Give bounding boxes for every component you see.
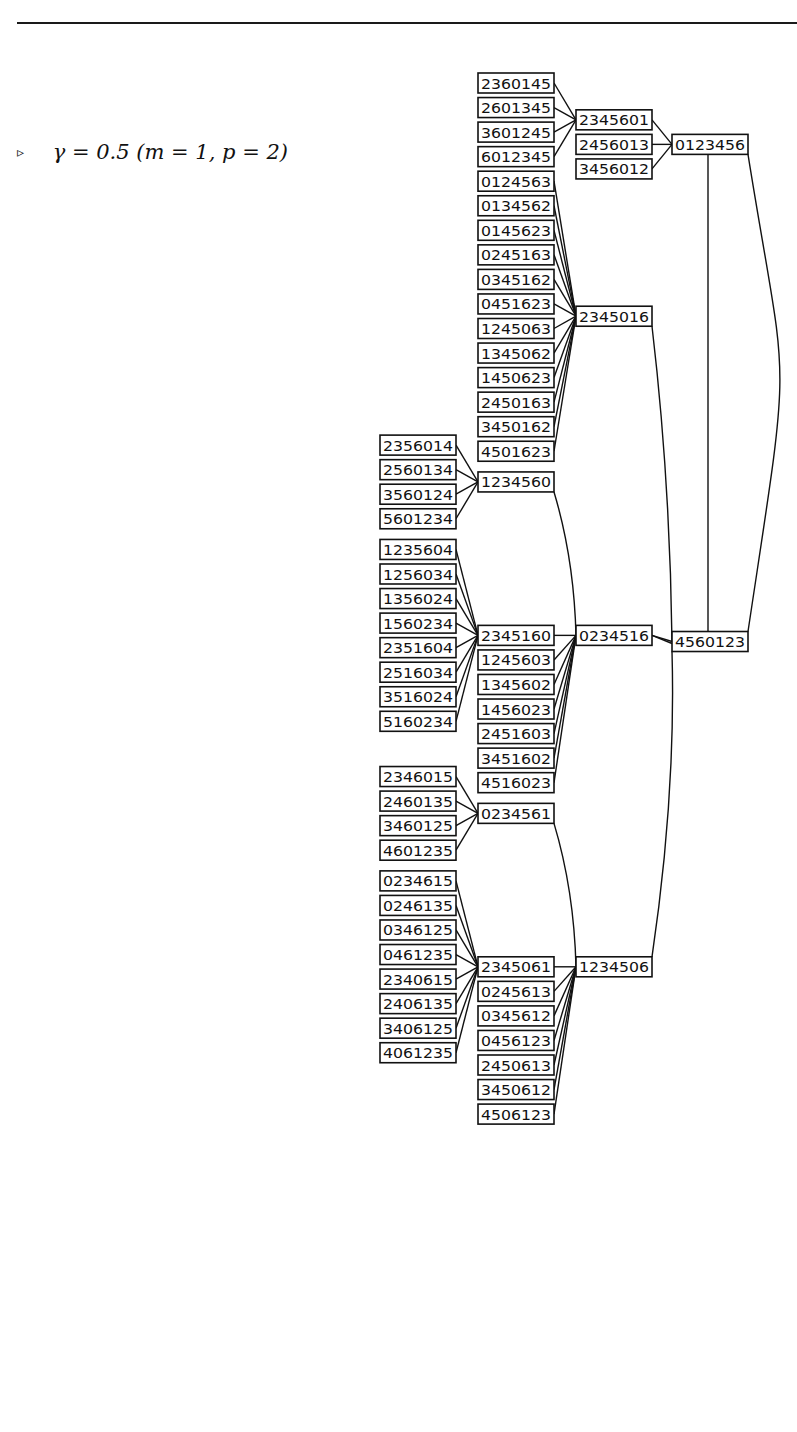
tree-diagram: 2360145260134536012456012345234560124560…: [0, 0, 797, 1432]
node-label: 2360145: [481, 76, 551, 92]
edge-4061235-2345061: [456, 967, 478, 1053]
node-2560134: 2560134: [380, 460, 456, 480]
edge-5160234-2345160: [456, 635, 478, 721]
node-label: 1345062: [481, 346, 551, 362]
node-label: 0345162: [481, 272, 551, 288]
edge-1234506-4560123: [652, 652, 673, 957]
node-1234506: 1234506: [576, 957, 652, 977]
node-label: 1235604: [383, 542, 453, 558]
node-label: 0346125: [383, 922, 453, 938]
node-label: 0145623: [481, 223, 551, 239]
edge-3456012-0123456: [652, 144, 672, 169]
node-label: 2345016: [579, 309, 649, 325]
node-3516024: 3516024: [380, 687, 456, 707]
node-1456023: 1456023: [478, 699, 554, 719]
node-3456012: 3456012: [576, 159, 652, 179]
node-label: 2340615: [383, 972, 453, 988]
edge-4501623-2345016: [554, 316, 576, 451]
node-label: 1560234: [383, 616, 453, 632]
node-label: 3406125: [383, 1021, 453, 1037]
node-label: 2456013: [579, 137, 649, 153]
node-label: 0345612: [481, 1008, 551, 1024]
edge-0145623-2345016: [554, 230, 576, 316]
node-label: 2406135: [383, 996, 453, 1012]
edge-2450163-2345016: [554, 316, 576, 402]
node-label: 2346015: [383, 769, 453, 785]
node-label: 2345061: [481, 959, 551, 975]
node-label: 6012345: [481, 149, 551, 165]
node-label: 2345160: [481, 628, 551, 644]
node-2601345: 2601345: [478, 98, 554, 118]
node-2460135: 2460135: [380, 791, 456, 811]
node-0245163: 0245163: [478, 245, 554, 265]
node-0345612: 0345612: [478, 1006, 554, 1026]
edge-2345016-4560123: [652, 326, 672, 641]
node-label: 3456012: [579, 161, 649, 177]
node-label: 3601245: [481, 125, 551, 141]
node-4601235: 4601235: [380, 840, 456, 860]
node-1345602: 1345602: [478, 674, 554, 694]
node-0345162: 0345162: [478, 269, 554, 289]
node-label: 3516024: [383, 689, 453, 705]
node-1235604: 1235604: [380, 539, 456, 559]
node-label: 3450612: [481, 1082, 551, 1098]
edge-2345601-0123456: [652, 120, 672, 145]
node-label: 0245613: [481, 984, 551, 1000]
node-label: 2451603: [481, 726, 551, 742]
node-2451603: 2451603: [478, 724, 554, 744]
edge-0234615-2345061: [456, 881, 478, 967]
node-label: 2601345: [481, 100, 551, 116]
node-2360145: 2360145: [478, 73, 554, 93]
node-2450163: 2450163: [478, 392, 554, 412]
node-0145623: 0145623: [478, 220, 554, 240]
node-4516023: 4516023: [478, 773, 554, 793]
node-label: 5601234: [383, 511, 453, 527]
node-0346125: 0346125: [380, 920, 456, 940]
node-5601234: 5601234: [380, 509, 456, 529]
edge-4506123-1234506: [554, 967, 576, 1114]
node-2356014: 2356014: [380, 435, 456, 455]
node-label: 4061235: [383, 1045, 453, 1061]
node-1356024: 1356024: [380, 589, 456, 609]
node-label: 0124563: [481, 174, 551, 190]
node-label: 2516034: [383, 665, 453, 681]
node-label: 0234561: [481, 806, 551, 822]
node-label: 1256034: [383, 567, 453, 583]
node-label: 3460125: [383, 818, 453, 834]
node-label: 4506123: [481, 1107, 551, 1123]
node-label: 3450162: [481, 419, 551, 435]
node-label: 5160234: [383, 714, 453, 730]
node-0246135: 0246135: [380, 895, 456, 915]
node-label: 2560134: [383, 462, 453, 478]
node-label: 3451602: [481, 751, 551, 767]
node-label: 0123456: [675, 137, 745, 153]
node-2456013: 2456013: [576, 134, 652, 154]
edge-0123456-4560123: [748, 154, 780, 631]
node-1256034: 1256034: [380, 564, 456, 584]
node-3450612: 3450612: [478, 1080, 554, 1100]
node-5160234: 5160234: [380, 711, 456, 731]
edge-1235604-2345160: [456, 549, 478, 635]
edge-1234560-0234516: [554, 492, 576, 635]
node-2406135: 2406135: [380, 994, 456, 1014]
node-label: 0245163: [481, 247, 551, 263]
node-3601245: 3601245: [478, 122, 554, 142]
node-label: 1245063: [481, 321, 551, 337]
node-1234560: 1234560: [478, 472, 554, 492]
node-2345601: 2345601: [576, 110, 652, 130]
node-label: 0234615: [383, 873, 453, 889]
edge-0234561-1234506: [554, 823, 576, 966]
node-4501623: 4501623: [478, 441, 554, 461]
node-label: 0134562: [481, 198, 551, 214]
node-label: 2460135: [383, 794, 453, 810]
node-1345062: 1345062: [478, 343, 554, 363]
node-2345061: 2345061: [478, 957, 554, 977]
node-label: 1356024: [383, 591, 453, 607]
node-label: 0246135: [383, 898, 453, 914]
node-label: 2356014: [383, 438, 453, 454]
node-0451623: 0451623: [478, 294, 554, 314]
node-label: 4560123: [675, 634, 745, 650]
node-0245613: 0245613: [478, 981, 554, 1001]
node-3450162: 3450162: [478, 417, 554, 437]
node-0124563: 0124563: [478, 171, 554, 191]
